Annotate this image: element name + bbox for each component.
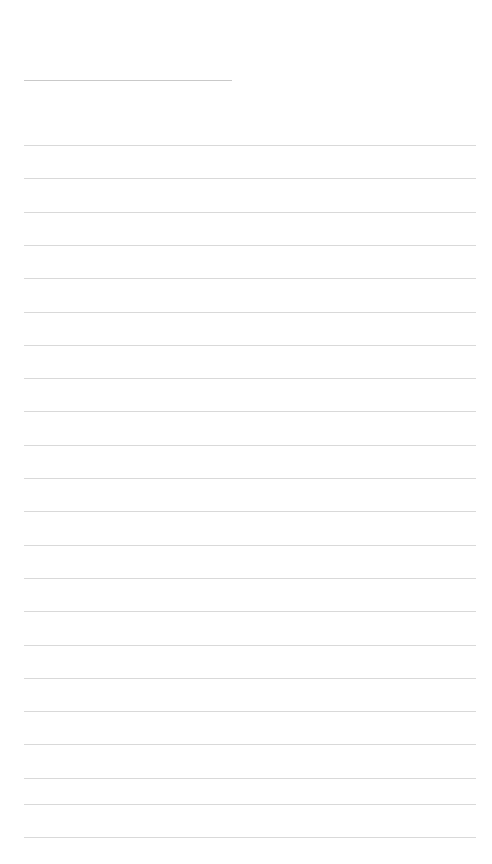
text-line[interactable] bbox=[24, 579, 476, 611]
text-line[interactable] bbox=[24, 180, 476, 212]
text-line[interactable] bbox=[24, 346, 476, 378]
text-line[interactable] bbox=[24, 313, 476, 345]
text-line[interactable] bbox=[24, 805, 476, 837]
text-line[interactable] bbox=[24, 213, 476, 245]
text-line[interactable] bbox=[24, 479, 476, 511]
text-line[interactable] bbox=[24, 413, 476, 445]
body-rule bbox=[24, 837, 476, 838]
text-line[interactable] bbox=[24, 146, 476, 178]
text-line[interactable] bbox=[24, 513, 476, 545]
document-title[interactable] bbox=[24, 50, 232, 80]
text-line[interactable] bbox=[24, 246, 476, 278]
text-line[interactable] bbox=[24, 546, 476, 578]
text-line[interactable] bbox=[24, 379, 476, 411]
text-line[interactable] bbox=[24, 280, 476, 312]
ruled-paper-page bbox=[0, 0, 492, 864]
text-line[interactable] bbox=[24, 712, 476, 744]
heading-underline bbox=[24, 80, 232, 81]
text-line[interactable] bbox=[24, 646, 476, 678]
text-line[interactable] bbox=[24, 613, 476, 645]
text-line[interactable] bbox=[24, 772, 476, 804]
text-line[interactable] bbox=[24, 679, 476, 711]
text-line[interactable] bbox=[24, 113, 476, 145]
text-line[interactable] bbox=[24, 446, 476, 478]
